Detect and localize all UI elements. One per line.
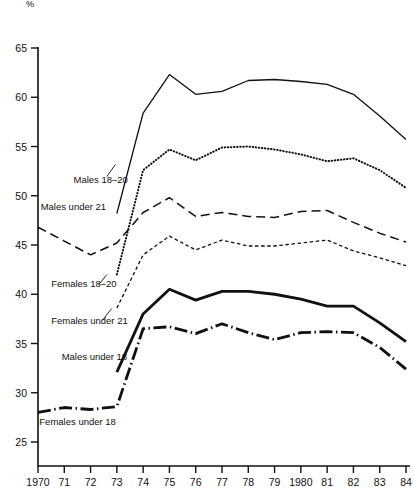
x-tick-label: 73: [111, 476, 123, 488]
series-label-2: Females 18–20: [51, 278, 116, 289]
series-label-3: Females under 21: [51, 315, 128, 326]
x-tick-label: 72: [85, 476, 97, 488]
y-tick-label: 40: [15, 288, 27, 300]
y-tick-label: 45: [15, 239, 27, 251]
x-tick-label: 1970: [26, 476, 50, 488]
y-tick-label: 60: [15, 91, 27, 103]
x-tick-label: 79: [269, 476, 281, 488]
y-tick-label: 30: [15, 387, 27, 399]
series-line-1: [117, 147, 406, 275]
chart-axes: [38, 47, 410, 466]
series-label-4: Males under 18: [62, 351, 127, 362]
x-tick-label: 75: [164, 476, 176, 488]
x-tick-label: 77: [216, 476, 228, 488]
series-label-5: Females under 18: [39, 416, 116, 427]
x-tick-label: 82: [348, 476, 360, 488]
chart-container: % 65605550454035302519707172737475767778…: [0, 0, 414, 494]
x-tick-label: 83: [374, 476, 386, 488]
x-tick-label: 81: [321, 476, 333, 488]
x-tick-label: 76: [190, 476, 202, 488]
series-label-1: Males under 21: [41, 201, 106, 212]
line-chart: 6560555045403530251970717273747576777879…: [0, 0, 414, 494]
x-tick-label: 1980: [289, 476, 313, 488]
y-tick-label: 65: [15, 42, 27, 54]
series-line-4: [117, 289, 406, 372]
x-tick-label: 74: [137, 476, 149, 488]
series-line-5: [38, 324, 406, 413]
x-tick-label: 71: [58, 476, 70, 488]
series-line-0: [117, 75, 406, 214]
x-tick-label: 84: [400, 476, 412, 488]
y-tick-label: 50: [15, 190, 27, 202]
y-tick-label: 25: [15, 436, 27, 448]
x-tick-label: 78: [242, 476, 254, 488]
series-label-0: Males 18–20: [73, 174, 127, 185]
y-tick-label: 35: [15, 338, 27, 350]
y-tick-label: 55: [15, 141, 27, 153]
